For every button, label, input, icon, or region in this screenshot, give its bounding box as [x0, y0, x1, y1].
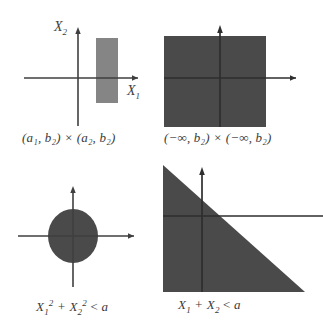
caption-top-right: (−∞, b₂) × (−∞, b₂): [164, 130, 272, 146]
y-axis-arrowhead: [199, 167, 205, 175]
y-axis-arrowhead: [75, 27, 80, 34]
y-axis-arrowhead: [70, 186, 75, 193]
caption-bottom-right: X1 + X2 < a: [178, 297, 241, 315]
y-axis-arrowhead: [217, 25, 223, 33]
x-axis-label-top-left: X1: [127, 83, 140, 101]
x-axis-arrowhead: [132, 75, 138, 80]
y-axis-label-top-left: X2: [54, 19, 67, 37]
x-axis-arrowhead: [128, 233, 134, 238]
shaded-square-region: [164, 36, 266, 127]
figure-root: X2 X1 (a₁, b₂) × (a₂, b₂) X2 X1 (−∞, b₂)…: [0, 0, 323, 331]
caption-bottom-left: X12 + X22 < a: [36, 298, 108, 317]
caption-top-left: (a₁, b₂) × (a₂, b₂): [22, 130, 115, 146]
x-axis-arrowhead: [290, 75, 296, 80]
shaded-halfplane-region: [163, 165, 305, 292]
shaded-rectangle-region: [96, 38, 118, 103]
